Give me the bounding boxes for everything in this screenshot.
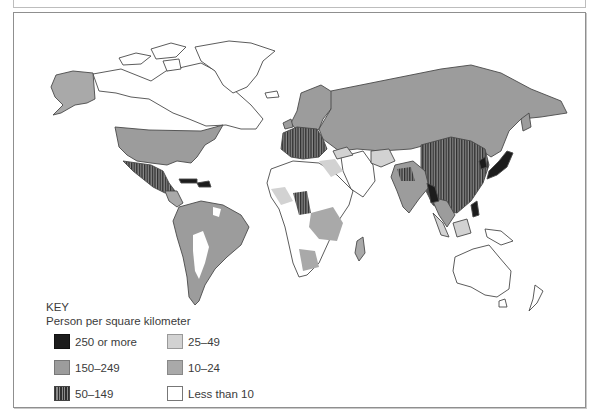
legend-label: 150–249 <box>75 362 120 374</box>
map-key: KEY Person per square kilometer 250 or m… <box>46 301 276 400</box>
region-alaska <box>51 71 95 115</box>
legend-item-less-than-10: Less than 10 <box>167 386 254 401</box>
key-subtitle: Person per square kilometer <box>46 314 276 328</box>
legend-label: 50–149 <box>75 388 113 400</box>
legend-item-150-249: 150–249 <box>54 360 120 375</box>
swatch-50-149 <box>54 386 70 401</box>
region-australia <box>453 245 511 297</box>
legend-label: Less than 10 <box>188 388 254 400</box>
legend-label: 250 or more <box>75 336 137 348</box>
swatch-less-than-10 <box>167 386 183 401</box>
legend-item-50-149: 50–149 <box>54 386 113 401</box>
region-mexico <box>123 161 175 193</box>
swatch-250-or-more <box>54 334 70 349</box>
region-usa <box>115 125 223 165</box>
swatch-150-249 <box>54 360 70 375</box>
region-south-america <box>173 201 249 305</box>
swatch-10-24 <box>167 360 183 375</box>
swatch-25-49 <box>167 334 183 349</box>
legend-item-250-or-more: 250 or more <box>54 334 137 349</box>
key-heading: KEY <box>46 301 276 314</box>
previous-caption-box <box>13 0 586 8</box>
legend-label: 10–24 <box>188 362 220 374</box>
map-frame: KEY Person per square kilometer 250 or m… <box>13 12 586 408</box>
legend-label: 25–49 <box>188 336 220 348</box>
legend-item-25-49: 25–49 <box>167 334 220 349</box>
legend-item-10-24: 10–24 <box>167 360 220 375</box>
key-legend: 250 or more 150–249 50–149 25–49 10–24 L… <box>46 334 276 400</box>
